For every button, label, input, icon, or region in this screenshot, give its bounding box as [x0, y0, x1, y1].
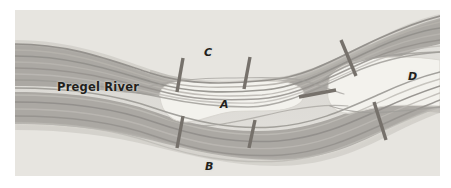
- konigsberg-bridges-figure: Pregel River A B C D: [0, 0, 451, 188]
- plate-sheen-overlay: [15, 10, 440, 176]
- river-map-illustration: [0, 0, 451, 188]
